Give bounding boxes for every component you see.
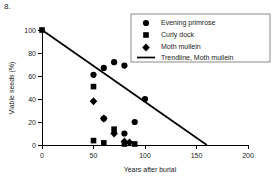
y-tick-label-40: 40: [28, 96, 36, 103]
y-tick-label-0: 0: [32, 142, 36, 149]
x-tick-label-0: 0: [40, 152, 44, 159]
x-tick-label-50: 50: [90, 152, 98, 159]
data-point: [121, 63, 127, 69]
data-point: [101, 65, 107, 71]
data-point: [101, 140, 107, 146]
data-point: [90, 97, 98, 105]
legend-label-trendline: Trendline, Moth mullein: [161, 54, 234, 61]
y-tick-label-20: 20: [28, 119, 36, 126]
chart-canvas: 0 20 40 60 80 100 0 50 100 150 200 Viabl…: [0, 0, 276, 184]
y-axis-title: Viable seeds (%): [8, 62, 16, 115]
data-point: [100, 115, 108, 123]
figure-container: 8. 0 20 40 60 80 100 0 50: [0, 0, 276, 184]
data-point: [142, 96, 148, 102]
data-point: [90, 72, 96, 78]
x-tick-label-200: 200: [242, 152, 254, 159]
legend-marker-circle-icon: [143, 20, 149, 26]
x-axis-title: Years after burial: [124, 166, 177, 173]
y-tick-label-100: 100: [24, 27, 36, 34]
legend-label-curly-dock: Curly dock: [161, 31, 195, 39]
y-tick-label-80: 80: [28, 50, 36, 57]
x-tick-label-150: 150: [191, 152, 203, 159]
chart-legend: Evening primrose Curly dock Moth mullein…: [131, 14, 270, 62]
data-point: [91, 138, 97, 144]
legend-label-moth-mullein: Moth mullein: [161, 43, 201, 50]
y-axis-ticks: 0 20 40 60 80 100: [24, 27, 42, 149]
data-point: [111, 59, 117, 65]
x-axis-ticks: 0 50 100 150 200: [40, 145, 254, 159]
data-point: [121, 130, 127, 136]
data-point: [39, 27, 45, 33]
data-point: [91, 84, 97, 90]
x-tick-label-100: 100: [139, 152, 151, 159]
data-point: [132, 119, 138, 125]
legend-label-evening-primrose: Evening primrose: [161, 19, 216, 27]
legend-marker-square-icon: [143, 32, 149, 38]
y-tick-label-60: 60: [28, 73, 36, 80]
